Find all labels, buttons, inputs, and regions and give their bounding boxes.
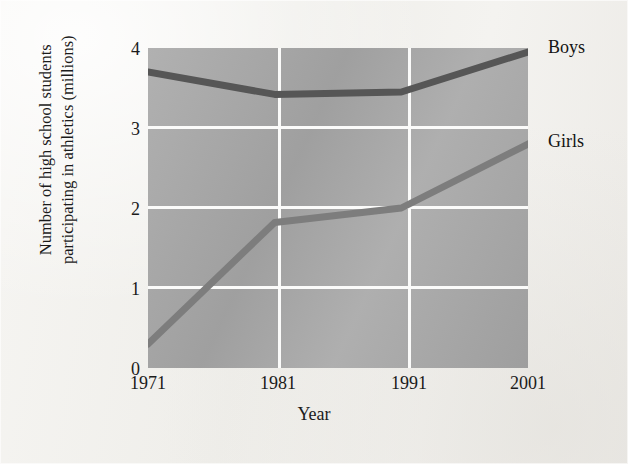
x-axis-title: Year [0, 404, 628, 425]
y-tick-2: 2 [114, 200, 140, 218]
series-label-boys: Boys [548, 38, 585, 56]
y-tick-4: 4 [114, 40, 140, 58]
y-axis-title: Number of high school students participa… [35, 5, 79, 295]
series-lines [148, 48, 528, 368]
y-tick-1: 1 [114, 280, 140, 298]
line-boys [148, 52, 528, 94]
line-girls [148, 144, 528, 344]
series-label-girls: Girls [548, 132, 584, 150]
y-axis-title-line1: Number of high school students [35, 5, 57, 295]
y-tick-3: 3 [114, 120, 140, 138]
x-tick-1971: 1971 [113, 374, 183, 392]
x-tick-2001: 2001 [493, 374, 563, 392]
plot-area [148, 48, 528, 368]
y-axis-title-line2: participating in athletics (millions) [57, 5, 79, 295]
chart-figure: 0 1 2 3 4 1971 1981 1991 2001 Number of … [0, 0, 628, 464]
x-tick-1991: 1991 [374, 374, 444, 392]
x-tick-1981: 1981 [243, 374, 313, 392]
y-axis-ticks: 0 1 2 3 4 [110, 0, 140, 464]
